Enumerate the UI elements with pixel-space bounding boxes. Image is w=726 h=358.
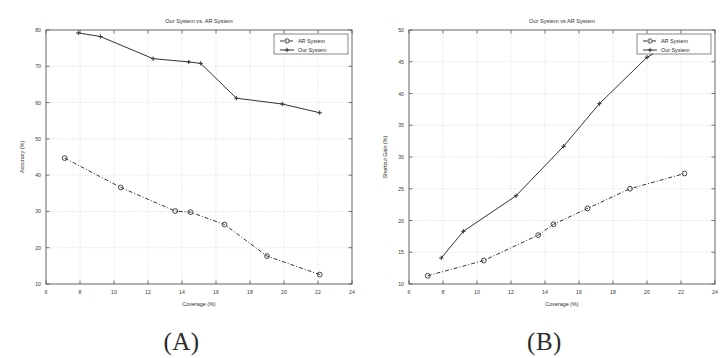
y-axis-label: Shortcut Gain (%): [382, 135, 388, 178]
chart-b-plot-area: Our System vs AR System68101214161820222…: [363, 0, 726, 315]
x-tick-label: 10: [474, 289, 480, 295]
x-tick-label: 6: [45, 289, 48, 295]
x-tick-label: 18: [610, 289, 616, 295]
x-axis-label: Coverage (%): [545, 301, 578, 307]
y-tick-label: 70: [35, 63, 41, 69]
y-tick-label: 40: [398, 91, 404, 97]
x-tick-label: 16: [213, 289, 219, 295]
x-tick-label: 12: [145, 289, 151, 295]
x-tick-label: 8: [442, 289, 445, 295]
legend[interactable]: AR SystemOur System: [637, 34, 711, 54]
x-axis-label: Coverage (%): [182, 301, 215, 307]
legend-label-ar-system: AR System: [661, 38, 688, 44]
y-tick-label: 30: [35, 208, 41, 214]
chart-b-svg: Our System vs AR System68101214161820222…: [363, 0, 726, 315]
legend-label-ar-system: AR System: [298, 38, 325, 44]
marker-circle: [173, 209, 178, 214]
y-axis-label: Accuracy (%): [19, 141, 25, 173]
panel-a: Our System vs. AR System6810121416182022…: [0, 0, 363, 358]
x-tick-label: 20: [281, 289, 287, 295]
plot-frame: [46, 30, 352, 284]
legend[interactable]: AR SystemOur System: [274, 34, 348, 54]
y-tick-label: 30: [398, 154, 404, 160]
chart-title: Our System vs AR System: [529, 18, 595, 24]
y-tick-label: 80: [35, 27, 41, 33]
x-tick-label: 16: [576, 289, 582, 295]
y-tick-label: 15: [398, 249, 404, 255]
x-tick-label: 10: [111, 289, 117, 295]
y-tick-label: 50: [35, 136, 41, 142]
x-tick-label: 24: [349, 289, 355, 295]
chart-a-svg: Our System vs. AR System6810121416182022…: [0, 0, 363, 315]
chart-a-plot-area: Our System vs. AR System6810121416182022…: [0, 0, 363, 315]
series-line-ar-system: [65, 158, 320, 274]
y-tick-label: 10: [35, 281, 41, 287]
y-tick-label: 45: [398, 59, 404, 65]
x-tick-label: 24: [712, 289, 718, 295]
x-tick-label: 18: [247, 289, 253, 295]
x-tick-label: 14: [542, 289, 548, 295]
panel-a-caption: (A): [0, 328, 363, 356]
x-tick-label: 6: [408, 289, 411, 295]
x-tick-label: 20: [644, 289, 650, 295]
panel-b-caption: (B): [363, 328, 726, 356]
chart-title: Our System vs. AR System: [165, 18, 233, 24]
x-tick-label: 12: [508, 289, 514, 295]
y-tick-label: 20: [35, 245, 41, 251]
x-tick-label: 14: [179, 289, 185, 295]
y-tick-label: 20: [398, 218, 404, 224]
y-tick-label: 25: [398, 186, 404, 192]
legend-label-our-system: Our System: [661, 47, 690, 53]
y-tick-label: 40: [35, 172, 41, 178]
figure-panels-row: Our System vs. AR System6810121416182022…: [0, 0, 726, 358]
y-tick-label: 50: [398, 27, 404, 33]
y-tick-label: 60: [35, 100, 41, 106]
y-tick-label: 10: [398, 281, 404, 287]
legend-label-our-system: Our System: [298, 47, 327, 53]
x-tick-label: 22: [678, 289, 684, 295]
x-tick-label: 22: [315, 289, 321, 295]
x-tick-label: 8: [79, 289, 82, 295]
panel-b: Our System vs AR System68101214161820222…: [363, 0, 726, 358]
y-tick-label: 35: [398, 122, 404, 128]
